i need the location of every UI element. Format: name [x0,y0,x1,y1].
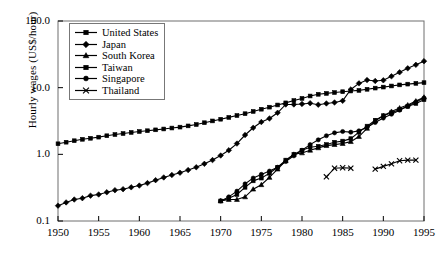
legend-item-south-korea[interactable]: South Korea [74,50,158,62]
legend-item-united-states[interactable]: United States [74,27,158,39]
legend-label: Japan [98,39,126,50]
legend-label: Singapore [98,73,145,84]
series-taiwan [219,98,426,203]
x-tick-label: 1965 [160,226,200,238]
x-tick-label: 1975 [241,226,281,238]
square-icon [74,27,98,38]
diamond-icon [74,39,98,50]
legend-item-thailand[interactable]: Thailand [74,85,158,97]
y-tick-label: 100.0 [4,14,50,26]
plot-area [0,0,444,254]
y-tick-label: 1.0 [4,147,50,159]
square-icon [74,62,98,73]
x-tick-label: 1980 [282,226,322,238]
triangle-icon [74,50,98,61]
wages-line-chart: Hourly wages (US$/hour) 100.010.01.00.1 … [0,0,444,254]
x-tick-label: 1985 [323,226,363,238]
x-tick-label: 1950 [38,226,78,238]
legend-label: United States [98,27,158,38]
circle-icon [74,73,98,84]
legend-label: Taiwan [98,62,133,73]
x-tick-label: 1955 [79,226,119,238]
y-tick-label: 0.1 [4,214,50,226]
x-tick-label: 1995 [404,226,444,238]
x-tick-label: 1990 [363,226,403,238]
legend-label: South Korea [98,50,155,61]
legend-item-taiwan[interactable]: Taiwan [74,62,158,74]
legend-label: Thailand [98,85,139,96]
legend-item-singapore[interactable]: Singapore [74,73,158,85]
series-thailand [324,158,419,180]
cross-icon [74,85,98,96]
x-tick-label: 1970 [201,226,241,238]
legend: United StatesJapanSouth KoreaTaiwanSinga… [69,23,165,100]
x-tick-label: 1960 [119,226,159,238]
legend-item-japan[interactable]: Japan [74,39,158,51]
y-tick-label: 10.0 [4,81,50,93]
